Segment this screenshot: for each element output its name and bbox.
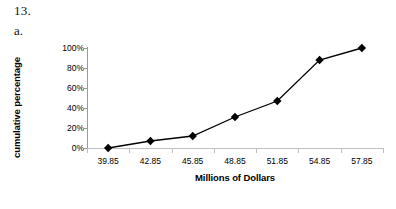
data-series-plot (87, 48, 383, 149)
y-axis-title: cumulative percentage (11, 48, 22, 168)
x-axis-tick-label: 39.85 (85, 156, 131, 166)
y-axis-tick-label: 80% (52, 64, 84, 72)
x-axis-tick-mark (256, 149, 257, 153)
y-axis-tick-mark (83, 128, 87, 129)
problem-number: 13. (14, 3, 31, 19)
data-point-marker (358, 44, 366, 52)
y-axis-tick-mark (83, 108, 87, 109)
y-axis-tick-label: 100% (52, 44, 84, 52)
x-axis-tick-label: 48.85 (212, 156, 258, 166)
x-axis-tick-labels: 39.8542.8545.8548.8551.8554.8557.85 (87, 156, 383, 170)
y-axis-tick-label: 40% (52, 104, 84, 112)
x-axis-tick-label: 51.85 (254, 156, 300, 166)
cumulative-percentage-chart: cumulative percentage 0%20%40%60%80%100%… (0, 40, 396, 209)
x-axis-tick-mark (87, 149, 88, 153)
y-axis-tick-mark (83, 88, 87, 89)
data-point-marker (231, 113, 239, 121)
x-axis-tick-mark (341, 149, 342, 153)
x-axis-tick-label: 57.85 (339, 156, 385, 166)
y-axis-tick-label: 20% (52, 124, 84, 132)
y-axis-tick-label: 0% (52, 144, 84, 152)
y-axis-tick-labels: 0%20%40%60%80%100% (52, 48, 84, 148)
y-axis-tick-mark (83, 68, 87, 69)
y-axis-tick-label: 60% (52, 84, 84, 92)
x-axis-tick-mark (172, 149, 173, 153)
x-axis-tick-mark (214, 149, 215, 153)
x-axis-tick-label: 45.85 (170, 156, 216, 166)
x-axis-tick-label: 54.85 (297, 156, 343, 166)
x-axis-tick-mark (298, 149, 299, 153)
data-point-marker (104, 144, 112, 152)
x-axis-title: Millions of Dollars (87, 172, 383, 183)
x-axis-tick-mark (129, 149, 130, 153)
part-letter: a. (14, 23, 23, 39)
x-axis-tick-mark (383, 149, 384, 153)
x-axis-tick-label: 42.85 (127, 156, 173, 166)
data-point-marker (146, 137, 154, 145)
y-axis-tick-mark (83, 48, 87, 49)
data-point-marker (189, 132, 197, 140)
